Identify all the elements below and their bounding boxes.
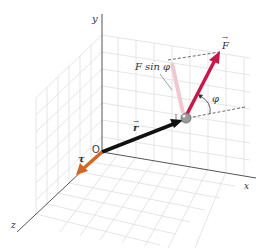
phi-label: φ	[212, 93, 219, 104]
r-arrow-mark: →	[133, 118, 139, 126]
torque-diagram: y x z O r → F → τ F sin φ φ	[0, 0, 271, 249]
x-axis-label: x	[244, 181, 249, 191]
y-axis-label: y	[91, 13, 98, 24]
origin-label: O	[92, 144, 100, 155]
xy-plane-grid	[102, 35, 250, 175]
phi-arc	[200, 96, 210, 114]
f-sin-phi-component	[172, 63, 183, 113]
f-sin-phi-leader	[160, 74, 172, 90]
f-sin-phi-label: F sin φ	[134, 61, 170, 72]
tau-vector-label: τ	[78, 153, 85, 164]
z-axis-label: z	[10, 220, 16, 230]
r-vector	[102, 123, 176, 152]
x-axis	[102, 152, 256, 178]
xz-plane-grid	[36, 154, 235, 248]
yz-plane-grid	[36, 35, 102, 214]
f-arrow-mark: →	[222, 34, 228, 42]
particle	[181, 113, 191, 123]
